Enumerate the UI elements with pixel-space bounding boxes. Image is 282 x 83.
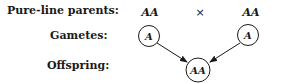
cross-symbol: ×: [195, 6, 204, 19]
cross-diagram: AA × AA A A AA: [0, 0, 282, 83]
parent-right-genotype: AA: [241, 6, 260, 19]
offspring-genotype: AA: [189, 65, 206, 76]
arrow-right-to-offspring: [210, 43, 240, 62]
parent-left-genotype: AA: [140, 6, 159, 19]
gamete-left-allele: A: [144, 31, 153, 42]
gamete-right-allele: A: [243, 30, 252, 41]
arrow-left-to-offspring: [157, 43, 187, 62]
